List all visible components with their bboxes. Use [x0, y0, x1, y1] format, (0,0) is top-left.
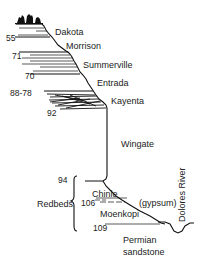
marker-number: 55 — [6, 34, 15, 43]
formation-label-permian: Permian — [123, 236, 157, 245]
marker-number: 106 — [81, 199, 95, 208]
marker-number: 71 — [12, 52, 21, 61]
formation-label-summerville: Summerville — [83, 61, 133, 70]
trees-icon — [15, 14, 43, 24]
formation-label-kayenta: Kayenta — [111, 97, 144, 106]
formation-label-chinle: Chinle — [92, 190, 118, 199]
river-label: Dolores River — [178, 167, 187, 222]
formation-label-gypsum: (gypsum) — [139, 199, 177, 208]
strata-lines — [15, 28, 160, 224]
marker-number: 70 — [25, 72, 34, 81]
group-label-redbeds: Redbeds — [37, 200, 73, 209]
marker-number: 109 — [93, 224, 107, 233]
cliff-profile — [16, 24, 165, 224]
marker-number: 88-78 — [10, 89, 32, 98]
formation-label-wingate: Wingate — [121, 140, 154, 149]
formation-label-moenkopi: Moenkopi — [100, 210, 139, 219]
formation-label-morrison: Morrison — [66, 42, 101, 51]
formation-label-dakota: Dakota — [55, 28, 84, 37]
marker-number: 94 — [58, 176, 67, 185]
marker-number: 92 — [47, 109, 56, 118]
formation-label-entrada: Entrada — [97, 79, 129, 88]
formation-label-sandstone: sandstone — [123, 248, 165, 257]
